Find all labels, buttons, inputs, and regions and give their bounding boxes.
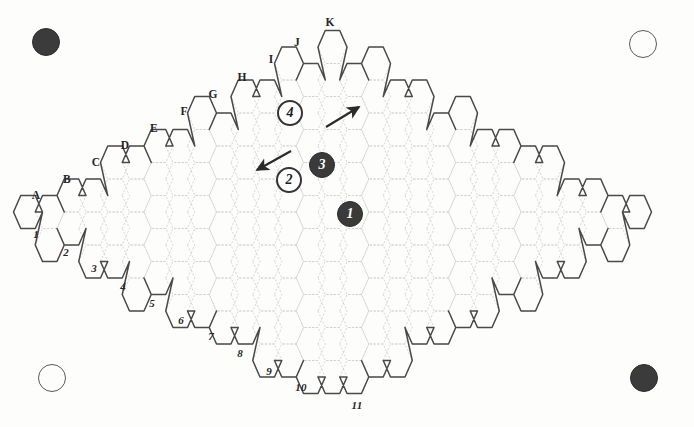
hex-cell[interactable]	[166, 196, 195, 229]
hex-cell[interactable]	[362, 245, 391, 278]
hex-cell[interactable]	[188, 262, 217, 295]
hex-cell[interactable]	[492, 163, 521, 196]
hex-cell[interactable]	[340, 163, 369, 196]
hex-cell[interactable]	[449, 196, 478, 229]
hex-cell[interactable]	[427, 146, 456, 179]
hex-cell[interactable]	[449, 163, 478, 196]
hex-cell[interactable]	[318, 295, 347, 328]
hex-cell[interactable]	[209, 212, 238, 245]
hex-cell[interactable]	[383, 146, 412, 179]
column-label-b: B	[63, 174, 71, 186]
hex-cell[interactable]	[427, 179, 456, 212]
hex-cell[interactable]	[318, 97, 347, 130]
hex-cell[interactable]	[514, 179, 543, 212]
hex-cell[interactable]	[188, 229, 217, 262]
hex-cell[interactable]	[122, 179, 151, 212]
column-label-g: G	[208, 89, 217, 101]
hex-cell[interactable]	[427, 245, 456, 278]
hex-cell[interactable]	[275, 311, 304, 344]
column-label-i: I	[269, 54, 274, 66]
hex-cell[interactable]	[296, 328, 325, 361]
hex-cell[interactable]	[470, 163, 499, 196]
hex-cell[interactable]	[405, 278, 434, 311]
corner-marker-top-right	[629, 30, 657, 58]
hex-cell[interactable]	[470, 196, 499, 229]
hex-cell[interactable]	[362, 311, 391, 344]
hex-cell[interactable]	[383, 278, 412, 311]
token-1[interactable]: 1	[337, 201, 363, 227]
row-label-8: 8	[237, 348, 243, 359]
hex-cell[interactable]	[340, 229, 369, 262]
hex-cell[interactable]	[340, 328, 369, 361]
hex-cell[interactable]	[405, 212, 434, 245]
hex-cell[interactable]	[275, 278, 304, 311]
hex-cell[interactable]	[296, 229, 325, 262]
corner-marker-top-left	[32, 28, 60, 56]
hex-cell[interactable]	[514, 212, 543, 245]
hex-cell[interactable]	[318, 262, 347, 295]
hex-cell[interactable]	[405, 146, 434, 179]
hex-cell[interactable]	[296, 295, 325, 328]
hex-cell[interactable]	[362, 212, 391, 245]
hex-cell[interactable]	[340, 262, 369, 295]
hex-cell[interactable]	[144, 163, 173, 196]
hex-cell[interactable]	[253, 212, 282, 245]
token-4[interactable]: 4	[277, 100, 303, 126]
hex-cell[interactable]	[362, 146, 391, 179]
hex-cell[interactable]	[492, 229, 521, 262]
hex-cell[interactable]	[296, 262, 325, 295]
token-2[interactable]: 2	[276, 167, 302, 193]
hex-cell[interactable]	[470, 229, 499, 262]
hex-cell[interactable]	[340, 130, 369, 163]
hex-cell[interactable]	[296, 196, 325, 229]
corner-marker-bottom-left	[38, 364, 66, 392]
row-label-2: 2	[63, 247, 69, 258]
hex-cell[interactable]	[383, 212, 412, 245]
hex-cell[interactable]	[427, 278, 456, 311]
hex-cell[interactable]	[318, 328, 347, 361]
hex-cell[interactable]	[275, 212, 304, 245]
hex-cell[interactable]	[340, 295, 369, 328]
hex-cell[interactable]	[209, 146, 238, 179]
hex-cell[interactable]	[122, 212, 151, 245]
hex-cell[interactable]	[362, 113, 391, 146]
hex-cell[interactable]	[275, 245, 304, 278]
hex-cell[interactable]	[188, 196, 217, 229]
hex-cell[interactable]	[144, 196, 173, 229]
hex-cell[interactable]	[231, 245, 260, 278]
hex-cell[interactable]	[340, 97, 369, 130]
column-label-j: J	[294, 37, 300, 49]
hex-cell[interactable]	[362, 278, 391, 311]
hex-cell[interactable]	[209, 245, 238, 278]
hex-cell[interactable]	[253, 245, 282, 278]
row-label-1: 1	[33, 229, 39, 240]
hex-cell[interactable]	[536, 212, 565, 245]
hex-cell[interactable]	[209, 179, 238, 212]
hex-cell[interactable]	[383, 179, 412, 212]
hex-cell[interactable]	[383, 245, 412, 278]
hex-cell[interactable]	[405, 245, 434, 278]
hex-cell[interactable]	[318, 229, 347, 262]
hex-cell[interactable]	[492, 196, 521, 229]
hex-cell[interactable]	[209, 278, 238, 311]
hex-cell[interactable]	[166, 229, 195, 262]
hex-cell[interactable]	[362, 179, 391, 212]
hex-cell[interactable]	[231, 179, 260, 212]
hex-cell[interactable]	[253, 278, 282, 311]
token-3[interactable]: 3	[309, 152, 335, 178]
hex-cell[interactable]	[231, 212, 260, 245]
hex-cell[interactable]	[427, 212, 456, 245]
hex-cell[interactable]	[405, 179, 434, 212]
hex-board-figure: ABCDEFGHIJK1234567891011 4231	[0, 0, 694, 427]
column-label-e: E	[150, 123, 158, 135]
hex-cell[interactable]	[449, 262, 478, 295]
hex-cell[interactable]	[188, 163, 217, 196]
hex-cell[interactable]	[101, 212, 130, 245]
hex-cell[interactable]	[383, 113, 412, 146]
hex-cell[interactable]	[449, 229, 478, 262]
hex-cell[interactable]	[231, 146, 260, 179]
row-label-3: 3	[91, 263, 97, 274]
hex-cell[interactable]	[166, 163, 195, 196]
hex-cell[interactable]	[231, 278, 260, 311]
hex-cell[interactable]	[144, 229, 173, 262]
